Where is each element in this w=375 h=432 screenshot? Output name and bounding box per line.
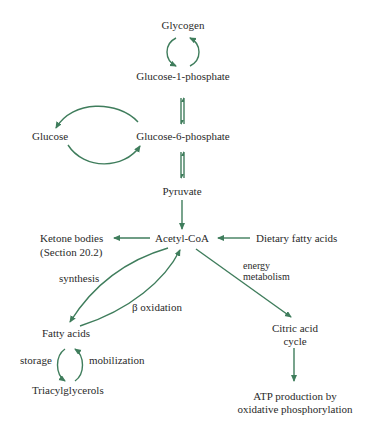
node-atp-production: ATP production by (253, 390, 336, 403)
beta-oxidation-arrow (80, 250, 180, 326)
label-energy: energy (243, 260, 270, 271)
label-mobilization: mobilization (89, 354, 145, 367)
g1p-to-glycogen-arrow (190, 38, 199, 66)
node-glucose-6-phosphate: Glucose-6-phosphate (136, 130, 229, 143)
label-metabolism: metabolism (243, 271, 290, 282)
label-synthesis: synthesis (59, 272, 99, 285)
node-oxidative-phosphorylation: oxidative phosphorylation (237, 403, 352, 416)
pathway-arrows (0, 0, 375, 432)
mobilization-arrow (75, 349, 83, 381)
node-fatty-acids: Fatty acids (42, 327, 90, 340)
node-ketone-bodies-section: (Section 20.2) (40, 246, 102, 259)
g6p-to-glucose-arrow (56, 106, 138, 128)
node-acetyl-coa: Acetyl-CoA (155, 232, 209, 245)
node-citric-acid: Citric acid (272, 322, 318, 335)
node-dietary-fatty-acids: Dietary fatty acids (256, 232, 337, 245)
node-glycogen: Glycogen (162, 19, 205, 32)
storage-arrow (58, 349, 66, 381)
label-beta-oxidation: β oxidation (132, 301, 182, 314)
node-glucose-1-phosphate: Glucose-1-phosphate (136, 70, 229, 83)
node-glucose: Glucose (32, 130, 68, 143)
glucose-to-g6p-arrow (68, 145, 140, 164)
glycogen-to-g1p-arrow (167, 38, 176, 66)
label-storage: storage (20, 354, 52, 367)
node-pyruvate: Pyruvate (162, 185, 201, 198)
node-citric-acid-cycle: cycle (283, 335, 306, 348)
node-triacylglycerols: Triacylglycerols (32, 384, 104, 397)
node-ketone-bodies: Ketone bodies (40, 232, 103, 245)
